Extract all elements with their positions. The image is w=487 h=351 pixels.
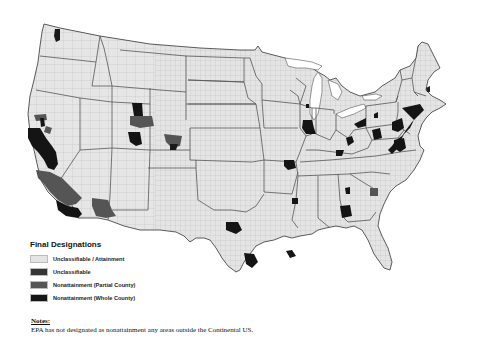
area-atlanta (340, 205, 352, 218)
notes: Notes: EPA has not designated as nonatta… (31, 317, 253, 334)
legend-swatch-partial-county (30, 281, 48, 289)
area-baton-rouge (286, 250, 296, 258)
legend-title: Final Designations (30, 240, 210, 249)
area-houston (244, 253, 258, 268)
legend: Final Designations Unclassifiable / Atta… (30, 240, 210, 305)
legend-label: Nonattainment (Partial County) (53, 282, 135, 288)
legend-swatch-attainment (30, 255, 48, 263)
area-charlotte (370, 188, 378, 196)
legend-item-whole-county: Nonattainment (Whole County) (30, 292, 210, 304)
legend-item-partial-county: Nonattainment (Partial County) (30, 279, 210, 291)
area-memphis (292, 198, 298, 204)
legend-swatch-whole-county (30, 294, 48, 302)
legend-label: Unclassifiable (53, 269, 91, 275)
notes-title: Notes: (31, 317, 253, 325)
legend-label: Unclassifiable / Attainment (53, 256, 124, 262)
notes-text: EPA has not designated as nonattainment … (31, 326, 253, 334)
legend-label: Nonattainment (Whole County) (53, 295, 135, 301)
legend-item-attainment: Unclassifiable / Attainment (30, 253, 210, 265)
legend-item-unclassifiable: Unclassifiable (30, 266, 210, 278)
area-sheboygan (306, 104, 309, 108)
legend-swatch-unclassifiable (30, 268, 48, 276)
